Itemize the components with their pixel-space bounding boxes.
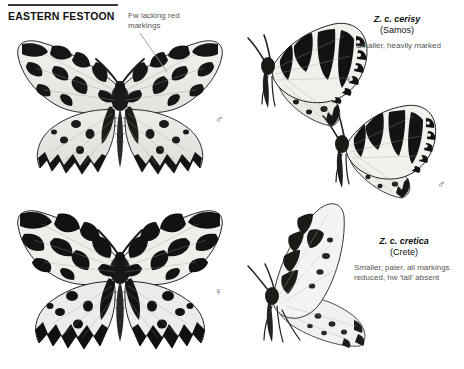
specimen-nominate-male-dorsal [14,28,226,190]
specimen-cerisy-male-lateral [322,100,448,202]
taxon-scientific-name: Z. c. cerisy [356,14,460,24]
taxon-description: Smaller, paler, all markings reduced, hw… [348,263,460,282]
title-rule [8,4,118,6]
male-symbol-nominate: ♂ [215,114,223,125]
page-title: EASTERN FESTOON [8,10,115,22]
plate-page: EASTERN FESTOON [0,0,464,369]
male-symbol-cerisy: ♂ [437,179,445,190]
taxon-locality: (Samos) [356,25,460,35]
taxon-locality: (Crete) [348,247,460,257]
female-symbol-cerisy: ♀ [344,74,352,85]
taxon-label-cerisy: Z. c. cerisy (Samos) Smaller, heavily ma… [356,14,460,51]
taxon-description: Smaller, heavily marked [356,41,460,51]
taxon-label-cretica: Z. c. cretica (Crete) Smaller, paler, al… [348,236,460,282]
callout-fw-red-markings: Fw lacking red markings [128,11,214,31]
female-symbol-nominate: ♀ [214,286,222,297]
taxon-scientific-name: Z. c. cretica [348,236,460,246]
specimen-nominate-female-dorsal [14,200,226,362]
